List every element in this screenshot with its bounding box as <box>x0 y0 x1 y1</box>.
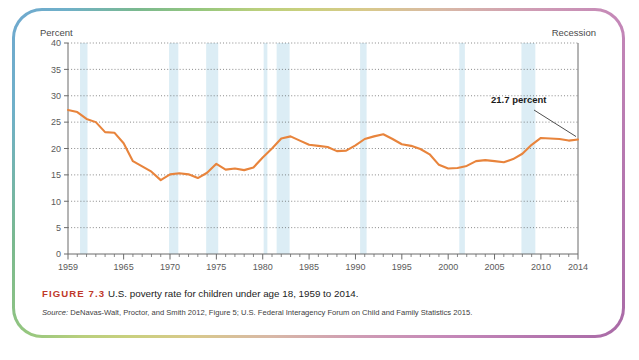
y-axis-tick-label: 15 <box>51 170 61 180</box>
y-axis-tick-labels-group: 0510152025303540 <box>51 38 68 259</box>
data-line-group <box>68 110 578 180</box>
source-prefix-label: Source: <box>42 308 68 317</box>
x-axis-tick-labels-group: 1959196519701975198019851990199520002005… <box>58 262 588 272</box>
x-axis-ticks-group <box>68 254 578 260</box>
figure-number-label: FIGURE 7.3 <box>42 288 105 299</box>
x-axis-tick-label: 1975 <box>206 262 226 272</box>
figure-container: 0510152025303540 19591965197019751980198… <box>0 0 639 360</box>
x-axis-tick-label: 2005 <box>485 262 505 272</box>
annotation-label: 21.7 percent <box>491 94 547 105</box>
recession-band <box>277 43 290 254</box>
figure-caption-text: U.S. poverty rate for children under age… <box>108 288 359 299</box>
x-axis-tick-label: 2000 <box>438 262 458 272</box>
y-axis-tick-label: 35 <box>51 65 61 75</box>
y-axis-tick-label: 0 <box>56 249 61 259</box>
poverty-rate-line-chart: 0510152025303540 19591965197019751980198… <box>40 26 600 281</box>
source-citation-text: DeNavas-Walt, Proctor, and Smith 2012, F… <box>70 308 472 317</box>
annotation-leader-line <box>534 110 576 137</box>
y-axis-tick-label: 20 <box>51 144 61 154</box>
y-axis-tick-label: 5 <box>56 223 61 233</box>
y-axis-tick-label: 40 <box>51 38 61 48</box>
x-axis-tick-label: 1959 <box>58 262 78 272</box>
caption-block: FIGURE 7.3 U.S. poverty rate for childre… <box>42 288 582 318</box>
x-axis-tick-label: 1970 <box>160 262 180 272</box>
x-axis-tick-label: 1980 <box>253 262 273 272</box>
chart-area: 0510152025303540 19591965197019751980198… <box>40 26 600 281</box>
x-axis-tick-label: 2014 <box>568 262 588 272</box>
x-axis-tick-label: 1990 <box>345 262 365 272</box>
figure-caption: FIGURE 7.3 U.S. poverty rate for childre… <box>42 288 582 301</box>
poverty-rate-line <box>68 110 578 180</box>
x-axis-tick-label: 1995 <box>392 262 412 272</box>
x-axis-tick-label: 1985 <box>299 262 319 272</box>
y-axis-tick-label: 25 <box>51 117 61 127</box>
y-axis-tick-label: 30 <box>51 91 61 101</box>
x-axis-tick-label: 2010 <box>531 262 551 272</box>
x-axis-tick-label: 1965 <box>114 262 134 272</box>
gridlines-group <box>68 43 578 228</box>
recession-legend-label: Recession <box>552 27 596 38</box>
y-axis-tick-label: 10 <box>51 197 61 207</box>
y-axis-label: Percent <box>40 27 73 38</box>
figure-source: Source: DeNavas-Walt, Proctor, and Smith… <box>42 308 582 318</box>
